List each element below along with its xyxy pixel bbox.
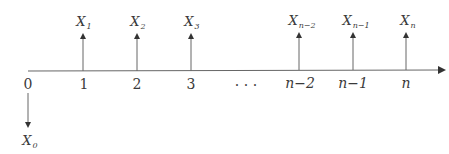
flow-label-n-2: Xn−2	[288, 14, 315, 30]
period-label-n-1: n−1	[338, 76, 368, 90]
period-label-1: 1	[80, 77, 89, 91]
period-label-n-2: n−2	[285, 76, 315, 90]
axis-arrowhead-icon	[438, 66, 446, 74]
flow-label-1: X1	[76, 15, 91, 31]
flow-label-2: X2	[130, 15, 145, 31]
flow-label-n-1: Xn−1	[342, 14, 369, 30]
flow-label-0: X0	[22, 134, 37, 150]
period-label-0: 0	[24, 77, 33, 91]
time-axis	[28, 70, 438, 71]
timeline-diagram	[0, 0, 449, 154]
period-label-n: n	[401, 76, 410, 90]
period-label-3: 3	[187, 77, 196, 91]
flow-label-3: X3	[184, 15, 199, 31]
period-label-2: 2	[133, 77, 142, 91]
ellipsis: . . .	[235, 74, 257, 88]
flow-label-n: Xn	[400, 14, 415, 30]
